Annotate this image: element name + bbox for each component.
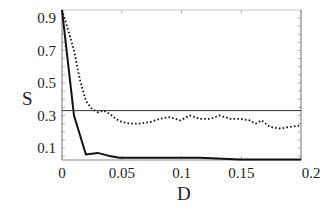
x-tick-label: 0.2	[302, 165, 321, 181]
x-tick-label: 0.1	[172, 165, 191, 181]
tick-labels: 0.90.70.50.30.100.050.10.150.2	[37, 10, 320, 181]
x-tick-label: 0	[58, 165, 66, 181]
chart: 0.90.70.50.30.100.050.10.150.2 S D	[0, 0, 327, 209]
x-axis-label: D	[177, 183, 191, 204]
series-solid	[62, 10, 301, 160]
y-tick-label: 0.9	[37, 10, 56, 26]
y-axis-label: S	[22, 88, 33, 109]
y-tick-label: 0.1	[37, 140, 56, 156]
plot-frame	[62, 10, 301, 160]
y-tick-label: 0.3	[37, 108, 56, 124]
series-group	[62, 10, 301, 160]
x-tick-label: 0.05	[109, 165, 135, 181]
y-tick-label: 0.5	[37, 75, 56, 91]
axis-ticks	[62, 10, 301, 160]
x-tick-label: 0.15	[228, 165, 254, 181]
y-tick-label: 0.7	[37, 43, 56, 59]
